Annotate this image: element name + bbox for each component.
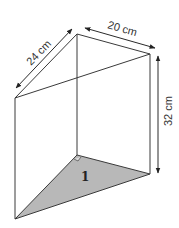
prism-diagram: 24 cm 20 cm 32 cm 1 bbox=[0, 0, 179, 228]
base-face-1 bbox=[15, 155, 150, 219]
dimension-label-height: 32 cm bbox=[162, 96, 174, 126]
top-face bbox=[15, 34, 150, 98]
base-face-label: 1 bbox=[81, 170, 89, 184]
